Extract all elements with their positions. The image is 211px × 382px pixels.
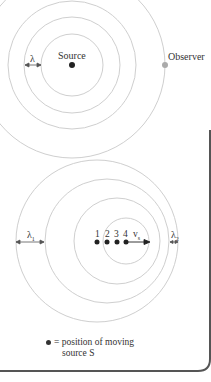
source-label: Source bbox=[58, 51, 86, 61]
observer-label: Observer bbox=[168, 52, 205, 62]
wavelength1-label: λ1 bbox=[27, 230, 35, 242]
wavelength-label: λ bbox=[30, 54, 35, 64]
legend-line2: source S bbox=[46, 348, 134, 359]
source-dot bbox=[69, 62, 75, 68]
source-positions bbox=[95, 240, 129, 245]
legend-dot-icon bbox=[46, 340, 51, 345]
figure-frame: Source Observer λ λ1 λ2 1 2 3 4 vs = pos… bbox=[0, 0, 211, 382]
position-2: 2 bbox=[105, 230, 110, 240]
observer-dot bbox=[162, 62, 168, 68]
wavelength2-label: λ2 bbox=[171, 230, 179, 242]
stationary-wavefronts bbox=[0, 0, 165, 158]
legend-line1: = position of moving bbox=[54, 337, 134, 347]
position-1: 1 bbox=[95, 230, 100, 240]
velocity-label: vs bbox=[133, 230, 140, 241]
position-3: 3 bbox=[114, 230, 119, 240]
position-4: 4 bbox=[123, 230, 128, 240]
legend: = position of moving source S bbox=[46, 337, 134, 359]
